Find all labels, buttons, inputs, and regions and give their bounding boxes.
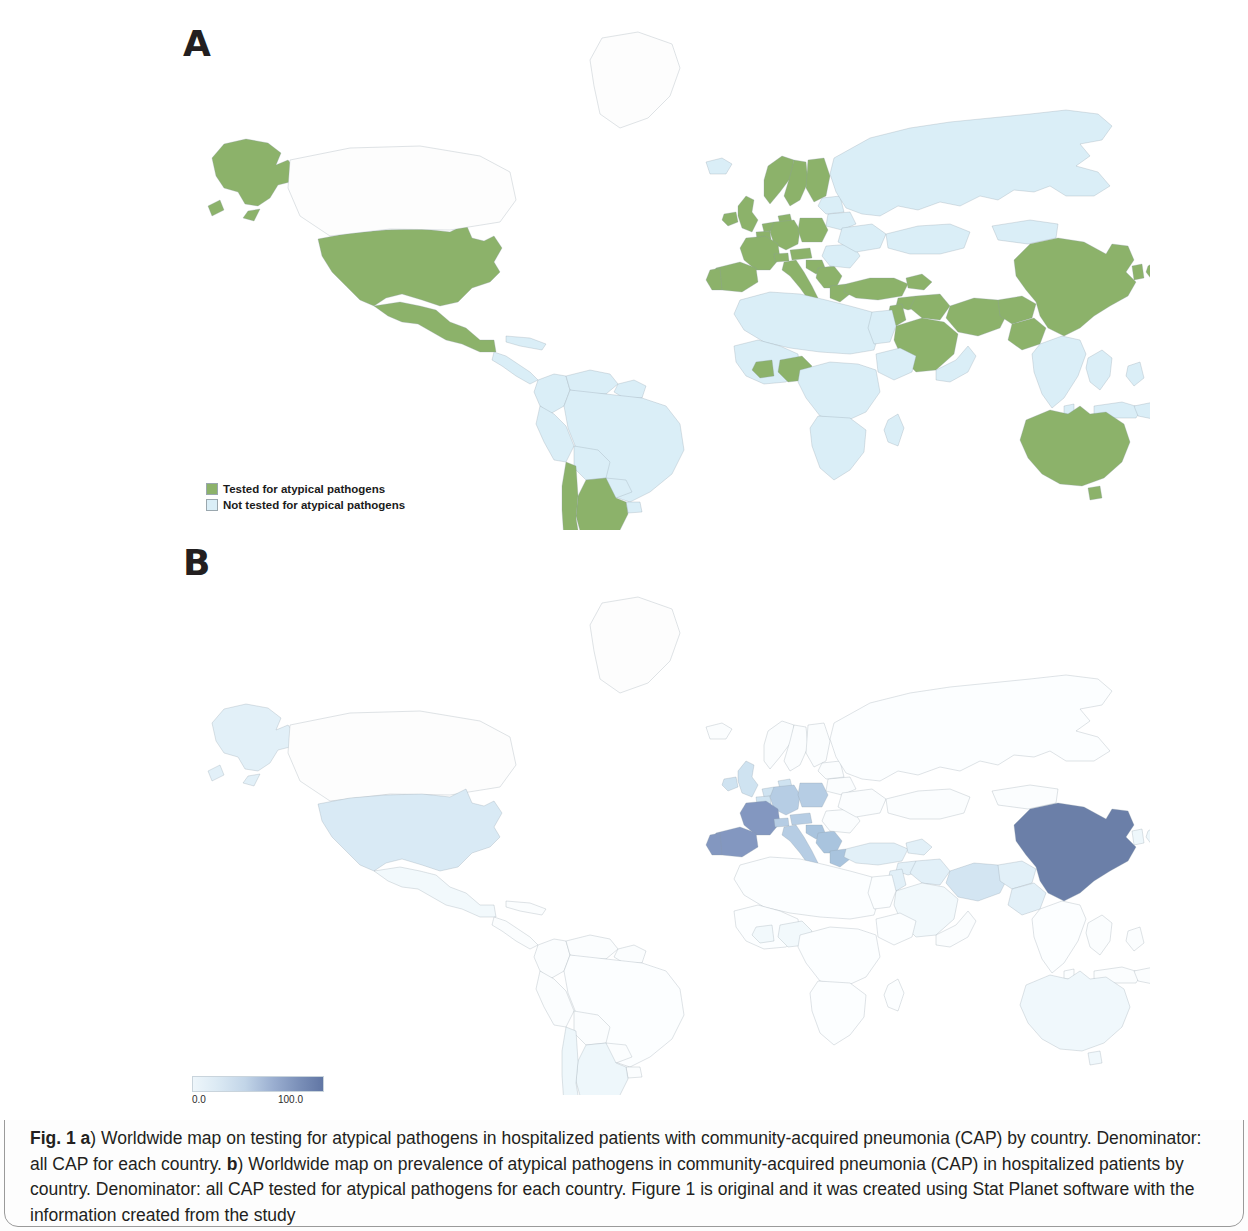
country-portugal [706, 268, 722, 290]
country-kazakhstan [886, 224, 970, 254]
country-turkey [844, 843, 908, 865]
caption-figure-number: Fig. 1 [30, 1128, 76, 1148]
legend-swatch-not-tested [206, 499, 218, 511]
caption-part-b-marker: b [227, 1154, 238, 1174]
country-central-america [492, 917, 538, 949]
country-tasmania [1088, 486, 1102, 500]
colorbar-gradient [192, 1076, 324, 1092]
country-russia [830, 675, 1112, 781]
legend-label-not-tested: Not tested for atypical pathogens [223, 497, 405, 513]
country-switzerland [774, 818, 789, 827]
country-canada [288, 146, 516, 236]
country-southeast-asia [1086, 915, 1112, 955]
country-portugal [706, 833, 722, 855]
country-alaska [208, 704, 296, 786]
legend-panel-a: Tested for atypical pathogens Not tested… [206, 481, 405, 513]
colorbar-max-label: 100.0 [278, 1094, 303, 1105]
country-greenland [590, 597, 680, 693]
map-b-svg [150, 575, 1150, 1095]
country-mexico [374, 302, 496, 352]
country-finland [806, 158, 830, 202]
world-map-panel-b [150, 575, 1150, 1095]
country-austria [790, 813, 812, 825]
legend-panel-b-colorbar: 0.0 100.0 [192, 1076, 324, 1108]
country-iceland [706, 158, 732, 174]
country-finland [806, 723, 830, 767]
country-iceland [706, 723, 732, 739]
country-australia [1020, 406, 1130, 486]
colorbar-ticks: 0.0 100.0 [192, 1094, 324, 1108]
country-balkans [816, 266, 842, 288]
figure-caption: Fig. 1 a) Worldwide map on testing for a… [30, 1126, 1218, 1228]
country-ireland [722, 777, 738, 791]
country-mexico [374, 867, 496, 917]
country-greenland [590, 32, 680, 128]
country-kazakhstan [886, 789, 970, 819]
country-iraq [910, 859, 950, 885]
world-map-panel-a [150, 10, 1150, 530]
country-philippines [1126, 362, 1144, 386]
country-egypt [868, 310, 896, 344]
country-canada [288, 711, 516, 801]
country-caucasus [906, 274, 932, 290]
country-uruguay [626, 502, 642, 513]
legend-swatch-tested [206, 483, 218, 495]
country-south-korea [1132, 829, 1144, 845]
legend-item-not-tested: Not tested for atypical pathogens [206, 497, 405, 513]
country-central-africa [798, 362, 880, 422]
country-japan [1146, 803, 1150, 857]
country-poland [798, 783, 828, 807]
map-a-countries [208, 32, 1150, 530]
country-egypt [868, 875, 896, 909]
country-india [1032, 901, 1086, 973]
caption-part-a-marker: a [81, 1128, 91, 1148]
country-india [1032, 336, 1086, 408]
country-united-kingdom [738, 196, 758, 232]
country-japan [1146, 238, 1150, 292]
country-southeast-asia [1086, 350, 1112, 390]
country-cuba [506, 901, 546, 915]
country-alaska [208, 139, 296, 221]
legend-label-tested: Tested for atypical pathogens [223, 481, 385, 497]
country-united-states [318, 789, 502, 871]
country-australia [1020, 971, 1130, 1051]
legend-item-tested: Tested for atypical pathogens [206, 481, 405, 497]
map-a-svg [150, 10, 1150, 530]
figure-body: A [0, 0, 1248, 1120]
country-turkey [844, 278, 908, 300]
country-balkans [816, 831, 842, 853]
country-cuba [506, 336, 546, 350]
colorbar-min-label: 0.0 [192, 1094, 206, 1105]
figure-page: A [0, 0, 1248, 1231]
country-madagascar [884, 414, 904, 446]
country-southern-africa [810, 981, 866, 1045]
country-poland [798, 218, 828, 242]
country-philippines [1126, 927, 1144, 951]
country-iraq [910, 294, 950, 320]
country-switzerland [774, 253, 789, 262]
country-ireland [722, 212, 738, 226]
country-madagascar [884, 979, 904, 1011]
map-b-countries [208, 597, 1150, 1095]
country-south-korea [1132, 264, 1144, 280]
country-caucasus [906, 839, 932, 855]
country-united-kingdom [738, 761, 758, 797]
country-austria [790, 248, 812, 260]
country-united-states [318, 224, 502, 306]
country-uruguay [626, 1067, 642, 1078]
country-southern-africa [810, 416, 866, 480]
country-central-america [492, 352, 538, 384]
country-central-africa [798, 927, 880, 987]
country-russia [830, 110, 1112, 216]
country-tasmania [1088, 1051, 1102, 1065]
